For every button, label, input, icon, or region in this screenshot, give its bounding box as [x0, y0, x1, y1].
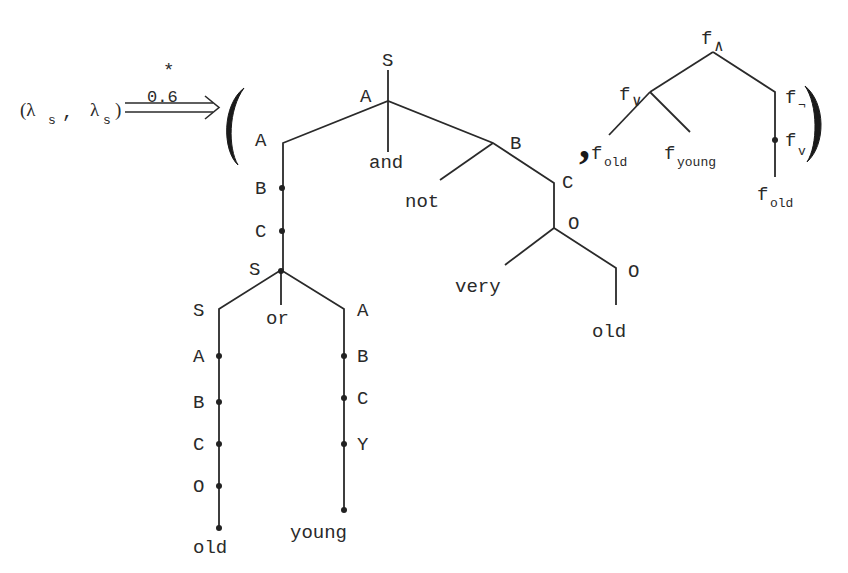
node-right-B: B	[510, 133, 521, 155]
node-sub-S-O: O	[193, 476, 204, 498]
leaf-f-young-subscript: young	[677, 155, 716, 170]
lambda-right: λ	[90, 99, 100, 120]
node-sub-S-B: B	[193, 392, 204, 414]
word-old-left: old	[193, 537, 227, 559]
leaf-f-old-2-subscript: old	[770, 196, 793, 211]
node-sub-A-B: B	[357, 346, 368, 368]
node-sub-S-A: A	[193, 346, 205, 368]
lambda-comma: ,	[62, 102, 73, 124]
relation-expression: (λ s , λ s ) * 0.6	[20, 60, 219, 128]
node-sub-A-Y: Y	[357, 434, 369, 456]
arrow-weight: 0.6	[147, 88, 178, 107]
word-old-right: old	[592, 321, 626, 343]
lambda-left: (λ	[20, 99, 36, 121]
tuple-close-paren	[805, 86, 821, 162]
node-left-B: B	[255, 178, 266, 200]
node-left-S: S	[249, 259, 260, 281]
node-f-very: f	[785, 130, 796, 152]
leaf-f-old-2: f	[757, 184, 768, 206]
word-not: not	[405, 191, 439, 213]
word-very: very	[455, 276, 501, 298]
word-young: young	[290, 522, 347, 544]
node-f-not-subscript: ¬	[798, 98, 806, 113]
lambda-close-paren: )	[115, 99, 121, 121]
leaf-f-old-1: f	[591, 143, 602, 165]
node-right-O1: O	[568, 213, 579, 235]
node-right-C: C	[562, 172, 573, 194]
word-or: or	[266, 308, 289, 330]
leaf-f-old-1-subscript: old	[604, 155, 627, 170]
lambda-right-subscript: s	[103, 113, 111, 128]
parse-diagram: (λ s , λ s ) * 0.6 ,	[0, 0, 848, 573]
node-sub-S-C: C	[193, 434, 204, 456]
semantic-tree: f ∧ f ∨ f ¬ f v f old f young f old	[591, 28, 806, 211]
node-f-or-subscript: ∨	[632, 93, 642, 111]
lambda-left-subscript: s	[48, 113, 56, 128]
node-right-O2: O	[628, 261, 639, 283]
node-sub-S: S	[193, 300, 204, 322]
tuple-open-paren	[227, 88, 244, 165]
arrow-star-superscript: *	[163, 60, 174, 82]
node-f-very-subscript: v	[798, 144, 806, 159]
node-f-and: f	[701, 28, 712, 50]
syntax-tree: S A A B C S and B not C O very O old S A…	[193, 50, 639, 559]
node-f-or: f	[619, 84, 630, 106]
node-root-A: A	[360, 86, 372, 108]
leaf-f-young: f	[664, 143, 675, 165]
node-f-not: f	[785, 87, 796, 109]
node-sub-A-C: C	[357, 388, 368, 410]
node-left-C: C	[255, 221, 266, 243]
tuple-separator-comma: ,	[579, 119, 590, 168]
node-root-S: S	[382, 50, 393, 72]
word-and: and	[369, 152, 403, 174]
node-sub-A: A	[357, 300, 369, 322]
node-f-and-subscript: ∧	[714, 38, 724, 56]
node-left-A: A	[255, 130, 267, 152]
